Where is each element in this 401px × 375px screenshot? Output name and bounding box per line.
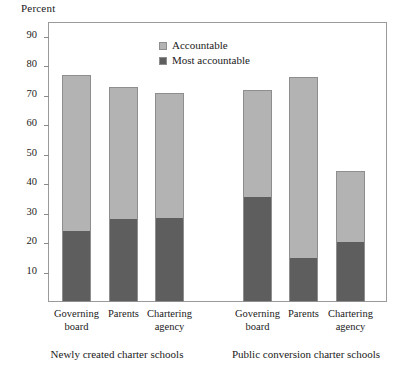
y-tick-label: 90: [27, 29, 38, 40]
bar-segment-accountable: [155, 93, 184, 218]
bar-segment-most-accountable: [109, 219, 138, 302]
y-tick-label: 10: [27, 265, 38, 276]
bar-3: [155, 93, 184, 302]
legend-label-accountable: Accountable: [172, 38, 228, 53]
bar-segment-accountable: [62, 75, 91, 231]
x-tick-label-3: Chartering agency: [134, 308, 206, 333]
bar-5: [289, 77, 318, 302]
bar-1: [62, 75, 91, 302]
y-axis-unit-label: Percent: [21, 2, 55, 14]
bar-segment-accountable: [109, 87, 138, 220]
y-tick-label: 20: [27, 235, 38, 246]
y-tick-mark: [44, 96, 49, 97]
y-tick-mark: [44, 184, 49, 185]
bar-4: [243, 90, 272, 302]
y-tick-mark: [44, 155, 49, 156]
x-tick-label-6: Chartering agency: [315, 308, 387, 333]
y-tick-mark: [44, 243, 49, 244]
group-label-newly-created: Newly created charter schools: [22, 348, 212, 360]
bar-segment-accountable: [289, 77, 318, 258]
y-tick-label: 80: [27, 58, 38, 69]
y-tick-mark: [44, 273, 49, 274]
chart-container: Percent 908070605040302010 Accountable M…: [0, 0, 401, 375]
bar-segment-most-accountable: [62, 231, 91, 302]
legend-item-most-accountable: Most accountable: [159, 53, 250, 68]
legend-item-accountable: Accountable: [159, 38, 250, 53]
bar-segment-most-accountable: [243, 197, 272, 302]
bar-segment-most-accountable: [155, 218, 184, 302]
y-tick-label: 40: [27, 176, 38, 187]
legend-label-most-accountable: Most accountable: [172, 53, 250, 68]
group-label-public-conversion: Public conversion charter schools: [212, 348, 400, 360]
y-tick-label: 70: [27, 88, 38, 99]
bar-2: [109, 87, 138, 302]
y-tick-label: 60: [27, 117, 38, 128]
bar-segment-accountable: [243, 90, 272, 198]
y-tick-mark: [44, 214, 49, 215]
y-tick-mark: [44, 66, 49, 67]
bar-segment-accountable: [336, 171, 365, 242]
legend-swatch-accountable: [159, 42, 167, 50]
bar-6: [336, 171, 365, 302]
y-tick-mark: [44, 37, 49, 38]
legend-swatch-most-accountable: [159, 57, 167, 65]
bar-segment-most-accountable: [336, 242, 365, 302]
chart-legend: Accountable Most accountable: [159, 38, 250, 68]
bar-segment-most-accountable: [289, 258, 318, 302]
y-tick-mark: [44, 125, 49, 126]
y-tick-label: 50: [27, 147, 38, 158]
y-tick-label: 30: [27, 206, 38, 217]
